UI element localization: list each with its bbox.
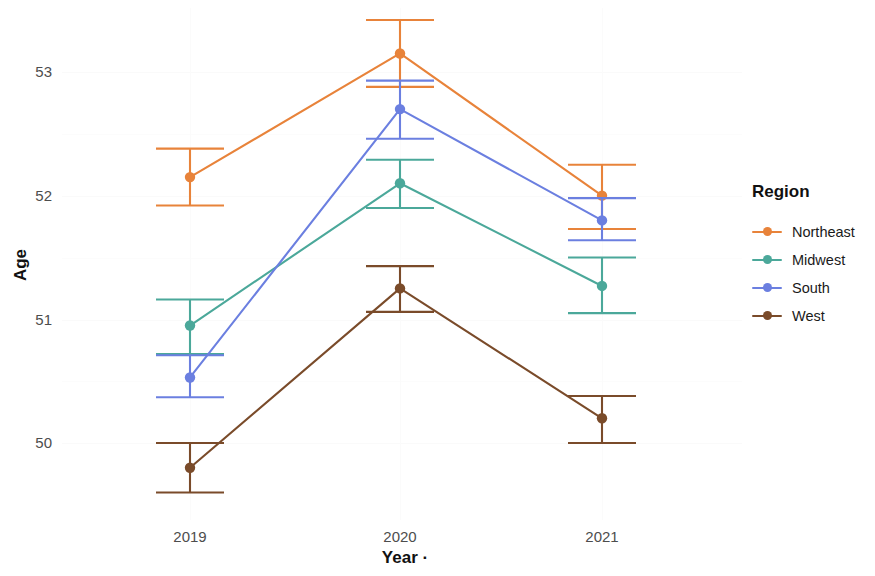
legend-label-south: South (792, 280, 830, 296)
legend-label-midwest: Midwest (792, 252, 845, 268)
legend-label-northeast: Northeast (792, 224, 855, 240)
legend-title: Region (752, 182, 872, 202)
series-south (156, 81, 636, 398)
legend-item-south[interactable]: South (752, 274, 872, 302)
legend-dot-west (763, 311, 772, 320)
legend-dot-south (763, 283, 772, 292)
legend-marker-icon-northeast (752, 225, 782, 239)
legend-marker-icon-midwest (752, 253, 782, 267)
legend-label-west: West (792, 308, 825, 324)
chart-container: 53 52 51 50 2019 2020 2021 Age Year · Re… (0, 0, 875, 576)
legend-item-midwest[interactable]: Midwest (752, 246, 872, 274)
series-northeast (156, 20, 636, 229)
series-midwest (156, 160, 636, 354)
plot-area (0, 0, 875, 576)
legend-item-northeast[interactable]: Northeast (752, 218, 872, 246)
legend-item-west[interactable]: West (752, 302, 872, 330)
legend-dot-northeast (763, 227, 772, 236)
legend: Region Northeast Midwest South (752, 182, 872, 330)
legend-marker-icon-south (752, 281, 782, 295)
legend-dot-midwest (763, 255, 772, 264)
legend-marker-icon-west (752, 309, 782, 323)
